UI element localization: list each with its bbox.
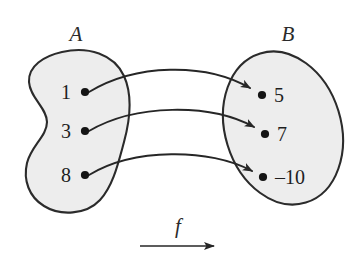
set-a-element-1-dot <box>81 88 89 96</box>
set-a-element-3-dot <box>81 127 89 135</box>
set-b-element-7-label: 7 <box>277 123 287 145</box>
set-b-element-5-label: 5 <box>274 84 284 106</box>
set-b-element-neg10-dot <box>259 173 267 181</box>
set-a-element-3-label: 3 <box>61 120 71 142</box>
function-name-label: f <box>175 214 184 238</box>
set-a-element-8-label: 8 <box>61 164 71 186</box>
set-a-element-1-label: 1 <box>61 81 71 103</box>
set-a-blob <box>26 50 130 212</box>
set-a-element-8-dot <box>81 171 89 179</box>
set-b-element-neg10-label: –10 <box>274 166 305 188</box>
set-b-label: B <box>282 22 295 46</box>
set-b-element-7-dot <box>261 130 269 138</box>
set-b-element-5-dot <box>258 91 266 99</box>
set-a-label: A <box>68 22 83 46</box>
mapping-diagram: A B 1 3 8 5 7 –10 f <box>0 0 361 263</box>
